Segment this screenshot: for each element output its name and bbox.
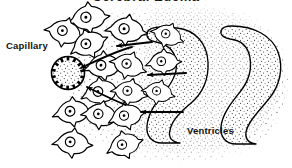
diagram-canvas — [0, 0, 292, 168]
capillary — [52, 57, 85, 90]
cerebral-edema-figure: Cerebral Edema — [0, 0, 292, 168]
capillary-label: Capillary — [6, 40, 48, 51]
ventricles-label: Ventricles — [187, 125, 234, 136]
